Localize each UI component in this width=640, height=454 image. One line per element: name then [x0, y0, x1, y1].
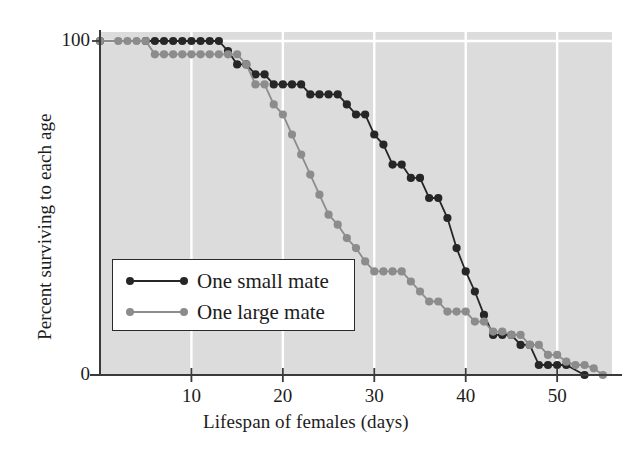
legend-dot-icon — [180, 277, 188, 285]
legend-label-one-small-mate: One small mate — [197, 269, 329, 294]
x-tick-label: 10 — [161, 385, 221, 407]
x-tick-label: 20 — [253, 385, 313, 407]
legend-swatch-one-small-mate — [126, 274, 188, 288]
legend-item-one-small-mate: One small mate — [113, 266, 354, 296]
legend-line-icon — [129, 280, 185, 282]
x-tick-label: 30 — [344, 385, 404, 407]
y-axis-title: Percent surviving to each age — [34, 113, 56, 340]
chart-legend: One small mate One large mate — [112, 259, 355, 331]
x-axis-title: Lifespan of females (days) — [203, 411, 409, 433]
y-tick-label: 100 — [40, 29, 90, 51]
x-tick-label: 50 — [527, 385, 587, 407]
y-tick-label: 0 — [40, 363, 90, 385]
legend-label-one-large-mate: One large mate — [197, 300, 325, 325]
legend-item-one-large-mate: One large mate — [113, 297, 354, 327]
legend-dot-icon — [126, 277, 134, 285]
legend-dot-icon — [180, 308, 188, 316]
legend-dot-icon — [126, 308, 134, 316]
x-tick-label: 40 — [436, 385, 496, 407]
legend-line-icon — [129, 311, 185, 313]
legend-swatch-one-large-mate — [126, 305, 188, 319]
survival-curve-figure: Percent surviving to each age Lifespan o… — [0, 0, 640, 454]
